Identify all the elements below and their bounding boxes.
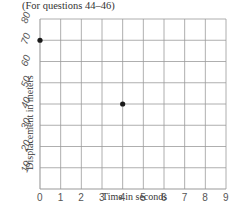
x-tick-label: 2 — [78, 192, 84, 203]
data-point — [120, 101, 125, 106]
x-tick-label: 0 — [37, 192, 43, 203]
grid — [40, 19, 226, 189]
chart-title: (For questions 44–46) — [22, 0, 115, 11]
y-tick-label: 80 — [18, 10, 32, 24]
x-axis-title: Time in seconds — [102, 191, 167, 202]
x-tick-label: 7 — [182, 192, 188, 203]
y-tick-label: 70 — [18, 32, 32, 46]
plot-area — [40, 19, 226, 189]
data-point — [37, 38, 42, 43]
y-axis-title: Displacement in meters — [24, 68, 35, 178]
x-tick-label: 8 — [202, 192, 208, 203]
x-tick-label: 1 — [58, 192, 64, 203]
y-tick-label: 60 — [18, 53, 32, 67]
x-tick-label: 9 — [223, 192, 229, 203]
